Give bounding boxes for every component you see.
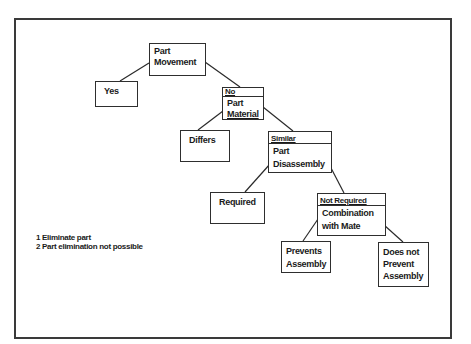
node-required: Required bbox=[210, 192, 265, 224]
node-prevents-assembly: Prevents Assembly bbox=[281, 241, 331, 273]
node-prevents-line-1: Prevents bbox=[286, 246, 327, 257]
node-yes-label: Yes bbox=[104, 86, 134, 97]
node-combination-with-mate: Not Required Combination with Mate bbox=[317, 193, 386, 236]
node-does-not-prevent-line-3: Assembly bbox=[383, 271, 425, 282]
node-part-material-line-2: Material bbox=[227, 109, 260, 120]
node-part-movement-line-1: Part bbox=[154, 46, 202, 57]
node-combination-branch-tag: Not Required bbox=[318, 194, 385, 206]
node-part-disassembly: Similar Part Disassembly bbox=[268, 131, 332, 173]
node-part-disassembly-branch-tag: Similar bbox=[269, 132, 331, 144]
legend-item-elimination-not-possible: 2 Part elimination not possible bbox=[36, 242, 143, 251]
legend: 1 Eliminate part 2 Part elimination not … bbox=[36, 233, 143, 251]
node-prevents-line-2: Assembly bbox=[286, 259, 327, 270]
node-does-not-prevent-line-2: Prevent bbox=[383, 259, 425, 270]
node-part-material-line-1: Part bbox=[227, 98, 260, 109]
legend-item-eliminate-part: 1 Eliminate part bbox=[36, 233, 143, 242]
node-yes: Yes bbox=[95, 81, 138, 107]
node-combination-line-1: Combination bbox=[322, 208, 382, 219]
node-part-material: No Part Material bbox=[222, 87, 264, 120]
node-required-label: Required bbox=[219, 197, 261, 208]
node-part-movement: Part Movement bbox=[149, 43, 206, 76]
node-part-movement-line-2: Movement bbox=[154, 57, 202, 68]
node-part-material-branch-tag: No bbox=[223, 88, 263, 97]
node-differs-label: Differs bbox=[189, 135, 226, 146]
node-part-disassembly-line-2: Disassembly bbox=[273, 159, 328, 170]
node-does-not-prevent-assembly: Does not Prevent Assembly bbox=[378, 242, 429, 287]
node-does-not-prevent-line-1: Does not bbox=[383, 247, 425, 258]
node-combination-line-2: with Mate bbox=[322, 221, 382, 232]
node-part-disassembly-line-1: Part bbox=[273, 146, 328, 157]
node-differs: Differs bbox=[180, 130, 230, 162]
diagram-frame bbox=[14, 18, 452, 339]
